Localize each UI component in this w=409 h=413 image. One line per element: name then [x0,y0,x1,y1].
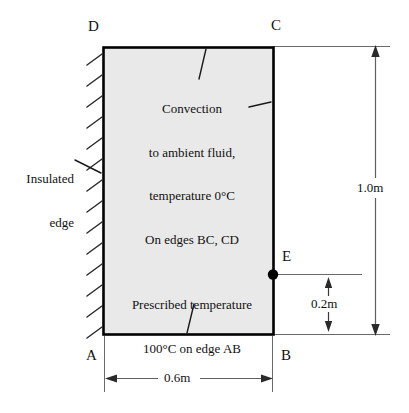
annotation-convection-line-4: On edges BC, CD [128,233,256,248]
annotation-convection-line-1: Convection [128,102,256,117]
insulated-edge-hatching [87,54,102,338]
vertex-label-b: B [281,347,291,364]
dimension-label-offset: 0.2m [311,297,337,312]
annotation-convection: Convection to ambient fluid, temperature… [128,73,256,277]
annotation-convection-line-2: to ambient fluid, [128,146,256,161]
annotation-prescribed-line-2: 100°C on edge AB [113,342,271,357]
dimension-label-height: 1.0m [357,181,383,196]
arrowhead-offset-bottom [325,321,332,332]
annotation-convection-line-3: temperature 0°C [128,189,256,204]
vertex-label-a: A [86,347,97,364]
heat-transfer-diagram: D C A B E Convection to ambient fluid, t… [0,0,409,413]
arrowhead-offset-top [325,277,332,288]
annotation-prescribed-line-1: Prescribed temperature [113,298,271,313]
annotation-insulated-edge: Insulated edge [0,143,74,259]
annotation-insulated-line-2: edge [0,216,74,231]
vertex-label-e: E [282,248,291,265]
annotation-prescribed-temperature: Prescribed temperature 100°C on edge AB [113,269,271,385]
vertex-label-c: C [271,17,281,34]
annotation-insulated-line-1: Insulated [0,172,74,187]
dimension-label-width: 0.6m [164,371,190,386]
vertex-label-d: D [88,18,99,35]
